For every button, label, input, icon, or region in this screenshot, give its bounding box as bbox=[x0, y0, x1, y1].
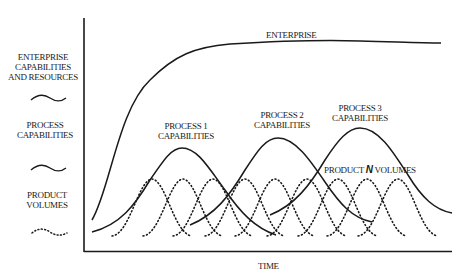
legend-product-line-2: VOLUMES bbox=[12, 200, 82, 210]
legend-process-symbol bbox=[31, 165, 66, 171]
process-2-label: PROCESS 2 CAPABILITIES bbox=[252, 110, 312, 130]
legend-enterprise-label: ENTERPRISE CAPABILITIES AND RESOURCES bbox=[4, 52, 82, 82]
process-1-curve bbox=[92, 148, 276, 235]
legend-process-label: PROCESS CAPABILITIES bbox=[10, 120, 80, 140]
process-2-label-line-2: CAPABILITIES bbox=[252, 120, 312, 130]
legend-process-line-2: CAPABILITIES bbox=[10, 130, 80, 140]
enterprise-curve-label: ENTERPRISE bbox=[266, 30, 317, 40]
legend-enterprise-symbol bbox=[31, 95, 66, 101]
enterprise-curve bbox=[92, 41, 441, 220]
legend-product-label: PRODUCT VOLUMES bbox=[12, 190, 82, 210]
product-volume-curves bbox=[112, 179, 438, 236]
x-axis-label: TIME bbox=[258, 261, 279, 271]
process-3-label-line-2: CAPABILITIES bbox=[330, 113, 390, 123]
process-2-label-line-1: PROCESS 2 bbox=[252, 110, 312, 120]
legend-product-line-1: PRODUCT bbox=[12, 190, 82, 200]
product-n-volumes-label: PRODUCT N VOLUMES bbox=[324, 165, 416, 175]
product-n-prefix: PRODUCT bbox=[324, 165, 366, 175]
product-n-italic: N bbox=[366, 164, 373, 175]
process-1-label-line-2: CAPABILITIES bbox=[156, 131, 216, 141]
process-1-label-line-1: PROCESS 1 bbox=[156, 121, 216, 131]
process-3-label-line-1: PROCESS 3 bbox=[330, 103, 390, 113]
legend-enterprise-line-1: ENTERPRISE bbox=[4, 52, 82, 62]
legend-enterprise-line-2: CAPABILITIES bbox=[4, 62, 82, 72]
process-3-label: PROCESS 3 CAPABILITIES bbox=[330, 103, 390, 123]
product-n-suffix: VOLUMES bbox=[373, 165, 416, 175]
legend-process-line-1: PROCESS bbox=[10, 120, 80, 130]
legend-enterprise-line-3: AND RESOURCES bbox=[4, 72, 82, 82]
process-1-label: PROCESS 1 CAPABILITIES bbox=[156, 121, 216, 141]
legend-product-symbol bbox=[32, 229, 67, 235]
